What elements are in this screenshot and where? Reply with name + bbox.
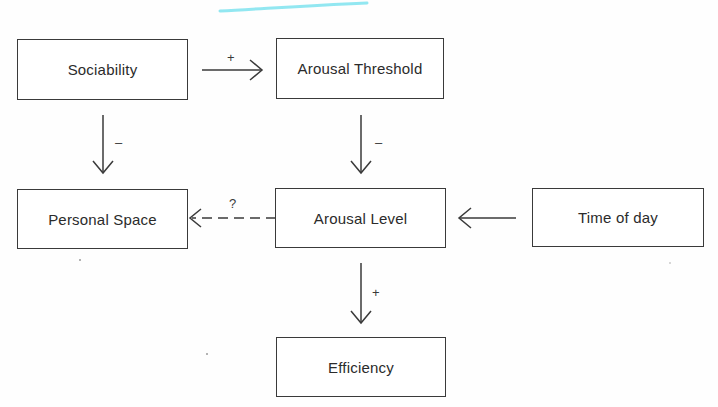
node-label: Personal Space xyxy=(48,211,157,228)
edge-label-minus: – xyxy=(375,136,382,149)
node-label: Efficiency xyxy=(328,359,394,376)
edge-label-minus: – xyxy=(115,136,122,149)
node-sociability: Sociability xyxy=(17,39,188,100)
arrow-level-to-efficiency xyxy=(351,263,371,323)
arrow-sociability-to-personal-space xyxy=(93,115,113,173)
scan-speck xyxy=(79,259,81,261)
node-arousal-threshold: Arousal Threshold xyxy=(276,38,444,99)
edge-label-question: ? xyxy=(229,197,236,210)
arrow-level-to-personal-space xyxy=(190,209,276,227)
edge-label-plus: + xyxy=(227,51,235,64)
node-time-of-day: Time of day xyxy=(532,188,704,247)
node-personal-space: Personal Space xyxy=(17,189,188,249)
edge-label-plus: + xyxy=(372,286,380,299)
node-label: Arousal Threshold xyxy=(298,60,423,77)
node-label: Arousal Level xyxy=(314,210,408,227)
scan-speck xyxy=(206,353,208,355)
arrow-time-to-level xyxy=(459,208,516,228)
scan-speck xyxy=(669,262,671,264)
node-label: Time of day xyxy=(578,209,658,226)
arrow-threshold-to-level xyxy=(351,115,371,173)
diagram-canvas: Sociability Arousal Threshold Personal S… xyxy=(0,0,718,407)
node-arousal-level: Arousal Level xyxy=(275,188,446,248)
node-label: Sociability xyxy=(68,61,138,78)
highlight-stroke xyxy=(220,3,367,11)
node-efficiency: Efficiency xyxy=(276,337,446,397)
